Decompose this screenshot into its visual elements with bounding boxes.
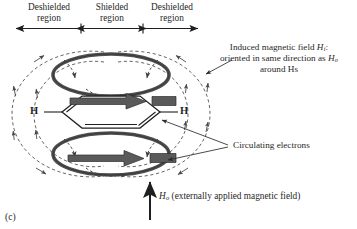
induced-magnetic-field-diagram: Deshielded region Shielded region Deshie… [0,0,357,229]
applied-field-subscript-inline: o [335,56,338,63]
applied-field-caption-text: (externally applied magnetic field) [169,191,300,201]
upper-circulation-ellipse [53,54,169,96]
hydrogen-left-label: H [30,105,38,117]
applied-field-symbol-inline: H [328,53,335,63]
region-ruler [16,24,198,34]
induced-field-line-2: oriented in same direction as Ho [204,53,354,64]
electron-flow-arrow-upper-right [152,97,176,106]
hydrogen-right-label: H [180,105,188,117]
induced-field-annotation: Induced magnetic field Hi: oriented in s… [204,42,354,75]
region-label-deshielded-right: Deshielded region [135,2,209,24]
induced-field-line-1: Induced magnetic field Hi: [204,42,354,53]
panel-letter: (c) [5,211,16,222]
induced-field-symbol: H [317,42,324,52]
electron-flow-arrow-lower [68,151,144,167]
applied-field-caption-symbol: H [159,191,166,201]
circulating-electrons-annotation: Circulating electrons [233,140,310,151]
electron-flow-arrow-lower-right [150,154,176,163]
leader-lines [162,60,232,160]
applied-field-caption: Ho (externally applied magnetic field) [159,191,300,202]
induced-field-line-3: around Hs [204,64,354,75]
